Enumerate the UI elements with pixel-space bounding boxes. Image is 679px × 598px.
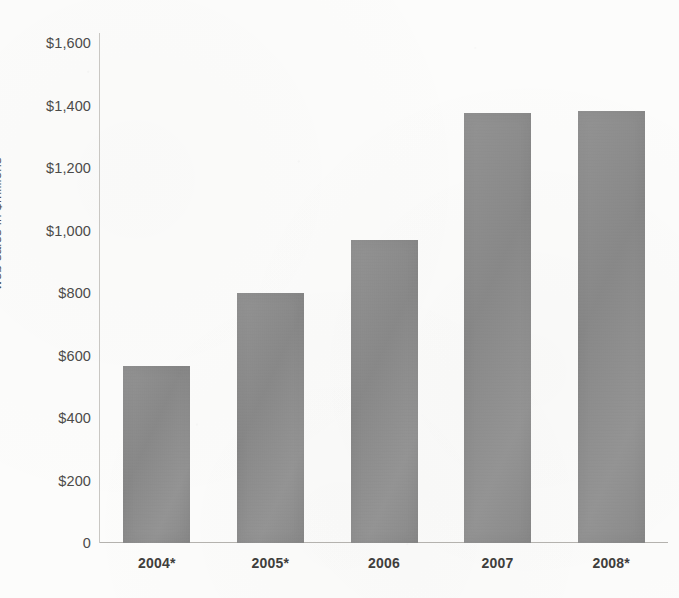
y-tick-label: $800: [11, 285, 91, 301]
y-tick-label: $200: [11, 473, 91, 489]
y-tick-label: $1,400: [11, 98, 91, 114]
y-tick-label: $1,600: [11, 35, 91, 51]
y-tick-label: $600: [11, 348, 91, 364]
y-tick-label: $1,200: [11, 160, 91, 176]
bar: [578, 111, 645, 543]
y-tick-label: $400: [11, 410, 91, 426]
bar: [351, 240, 418, 543]
bar: [237, 293, 304, 543]
y-axis-title: web sales in $millions: [0, 157, 4, 290]
y-tick-label: 0: [11, 535, 91, 551]
x-tick-label: 2008*: [541, 555, 679, 571]
bar: [123, 366, 190, 544]
plot-area: [100, 30, 668, 543]
bar: [464, 113, 531, 543]
y-tick-label: $1,000: [11, 223, 91, 239]
bar-chart: web sales in $millions 0$200$400$600$800…: [0, 0, 679, 598]
